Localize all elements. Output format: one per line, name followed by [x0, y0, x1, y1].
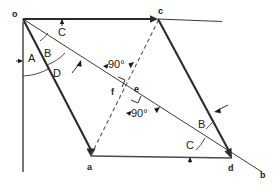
arc-angle-B1 [40, 33, 48, 41]
point-label-o: o [12, 9, 18, 19]
angle-pointer-upper-right [128, 62, 134, 68]
segment-label-C-upper: C [58, 26, 66, 38]
line-c-d [158, 19, 229, 151]
arrowhead-at-c [150, 15, 158, 23]
line-o-b [23, 19, 262, 172]
ray-beyond-c [158, 19, 222, 22]
geometry-diagram: o c a d b e f A B C D B C 90° 90° [0, 0, 275, 191]
segment-label-D: D [53, 67, 61, 79]
line-a-c-dashed [91, 21, 158, 155]
arc-angle-B2 [206, 120, 214, 129]
angle-pointer-lower-right [154, 107, 160, 113]
tick-ob-head [77, 60, 82, 67]
diagram-canvas: o c a d b e f A B C D B C 90° 90° [0, 0, 275, 191]
segment-label-B-lower: B [198, 118, 205, 130]
point-label-f: f [111, 87, 115, 97]
segment-label-C-lower: C [186, 139, 194, 151]
line-o-a [23, 19, 91, 150]
right-angle-mark-lower [131, 96, 141, 103]
point-label-b: b [260, 170, 266, 180]
segment-label-B-upper: B [44, 47, 51, 59]
segment-label-A: A [28, 52, 36, 64]
point-label-c: c [158, 6, 163, 16]
tick-cd-head [214, 108, 221, 113]
point-label-a: a [87, 162, 93, 172]
arc-angle-C2 [196, 138, 205, 150]
arc-angle-A [23, 68, 50, 76]
point-label-e: e [134, 84, 139, 94]
angle-label-lower: 90° [131, 107, 148, 119]
line-a-d [91, 156, 231, 158]
angle-label-upper: 90° [108, 58, 125, 70]
point-label-d: d [228, 163, 234, 173]
